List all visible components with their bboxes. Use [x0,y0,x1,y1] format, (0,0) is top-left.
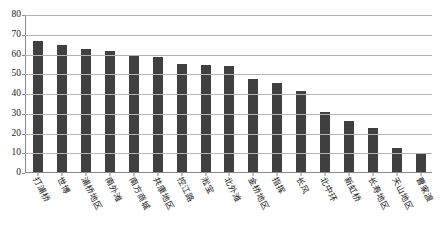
bar[interactable] [296,91,306,172]
gridline [25,35,432,36]
gridline [25,134,432,135]
bar[interactable] [272,83,282,172]
x-axis-tick-label: 曹家渡 [415,176,435,204]
bar[interactable] [320,112,330,172]
y-axis-tick-label: 50 [2,70,21,80]
y-axis-tick-mark [22,153,25,154]
x-axis-tick-label: 淞宝 [199,176,215,196]
x-axis-label-slot: 南外滩 [97,174,121,239]
gridline [25,55,432,56]
gridline [25,94,432,95]
gridline [25,153,432,154]
gridline [25,15,432,16]
bar-chart: 01020304050607080 打浦桥世博浦桥地区南外滩南方商城共康地区控江… [0,0,446,239]
x-axis-label-slot: 天山地区 [384,174,408,239]
x-axis-label-slot: 新虹桥 [336,174,360,239]
x-axis-label-slot: 指挥 [264,174,288,239]
gridline [25,74,432,75]
x-axis-label-slot: 北外滩 [217,174,241,239]
gridline [25,114,432,115]
x-axis-label-slot: 控江路 [169,174,193,239]
x-axis-label-slot: 浦桥地区 [73,174,97,239]
y-axis-tick-mark [22,134,25,135]
y-axis-tick-mark [22,35,25,36]
x-axis-label-slot: 打浦桥 [25,174,49,239]
x-axis-label-slot: 长风 [288,174,312,239]
x-axis-label-slot: 金桥地区 [240,174,264,239]
y-axis-tick-label: 30 [2,109,21,119]
y-axis-tick-mark [22,55,25,56]
x-axis-labels: 打浦桥世博浦桥地区南外滩南方商城共康地区控江路淞宝北外滩金桥地区指挥长风北中环新… [25,174,432,239]
y-axis-tick-mark [22,94,25,95]
x-axis-tick-label: 长风 [295,176,311,196]
x-axis-label-slot: 共康地区 [145,174,169,239]
y-axis-tick-label: 0 [2,168,21,178]
bar[interactable] [344,121,354,172]
x-axis-label-slot: 南方商城 [121,174,145,239]
bar[interactable] [416,153,426,172]
y-axis-tick-label: 70 [2,30,21,40]
bar[interactable] [392,148,402,172]
x-axis-tick-label: 指挥 [271,176,287,196]
y-axis-tick-mark [22,114,25,115]
x-axis-label-slot: 曹家渡 [408,174,432,239]
bar[interactable] [224,66,234,172]
y-axis-tick-label: 10 [2,149,21,159]
y-axis-tick-mark [22,15,25,16]
x-axis-label-slot: 北中环 [312,174,336,239]
x-axis-label-slot: 世博 [49,174,73,239]
y-axis-tick-label: 80 [2,10,21,20]
y-axis-tick-label: 40 [2,89,21,99]
y-axis-tick-label: 60 [2,50,21,60]
x-axis-tick-label: 世博 [55,176,71,196]
y-axis-tick-mark [22,74,25,75]
x-axis-label-slot: 长寿地区 [360,174,384,239]
x-axis-label-slot: 淞宝 [193,174,217,239]
y-axis-tick-label: 20 [2,129,21,139]
bar[interactable] [177,64,187,172]
bar[interactable] [201,65,211,172]
